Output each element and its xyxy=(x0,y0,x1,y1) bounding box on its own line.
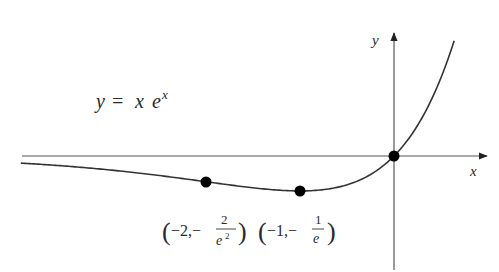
svg-text:): ) xyxy=(327,217,336,246)
inflection-point-marker xyxy=(201,177,212,188)
equation-label: y = x e x xyxy=(94,87,168,113)
svg-text:x: x xyxy=(161,87,168,102)
svg-text:(: ( xyxy=(258,217,267,246)
function-curve xyxy=(21,41,454,191)
svg-text:2: 2 xyxy=(221,212,228,227)
svg-text:(: ( xyxy=(162,217,171,246)
svg-text:−1,−: −1,− xyxy=(267,222,297,239)
svg-text:e: e xyxy=(313,231,319,246)
minimum-point-label: ( −1,− 1 e ) xyxy=(258,212,336,246)
svg-text:−2,−: −2,− xyxy=(171,222,201,239)
svg-text:e: e xyxy=(216,233,222,248)
inflection-point-label: ( −2,− 2 e 2 ) xyxy=(162,212,247,248)
svg-text:=: = xyxy=(112,90,123,112)
function-plot: y x y = x e x ( −2,− 2 e 2 ) ( −1,− 1 e … xyxy=(0,0,499,272)
x-axis-label: x xyxy=(469,163,477,179)
y-axis-label: y xyxy=(370,32,379,48)
origin-point-marker xyxy=(389,151,400,162)
minimum-point-marker xyxy=(295,186,306,197)
svg-text:): ) xyxy=(238,217,247,246)
svg-text:2: 2 xyxy=(225,231,230,241)
svg-text:x: x xyxy=(134,90,144,112)
svg-text:e: e xyxy=(152,90,161,112)
svg-text:y: y xyxy=(94,90,105,113)
svg-text:1: 1 xyxy=(315,212,322,227)
